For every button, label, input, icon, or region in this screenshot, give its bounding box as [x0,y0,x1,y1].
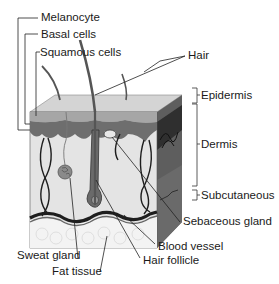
label-hair: Hair [188,50,209,62]
label-basal-cells: Basal cells [41,29,96,41]
label-sebaceous-gland: Sebaceous gland [183,216,272,228]
label-squamous-cells: Squamous cells [40,47,121,59]
skin-top-face [30,95,182,112]
label-hair-follicle: Hair follicle [143,255,199,267]
label-melanocyte: Melanocyte [41,12,100,24]
label-fat-tissue: Fat tissue [52,266,102,278]
sebaceous-gland-shape [104,130,116,138]
label-dermis: Dermis [201,139,237,151]
label-sweat-gland: Sweat gland [17,250,80,262]
label-epidermis: Epidermis [201,90,252,102]
layer-brackets [192,88,200,200]
label-blood-vessel: Blood vessel [158,241,223,253]
skin-diagram: Melanocyte Basal cells Squamous cells Ha… [0,0,279,284]
label-subcutaneous: Subcutaneous [201,190,275,202]
